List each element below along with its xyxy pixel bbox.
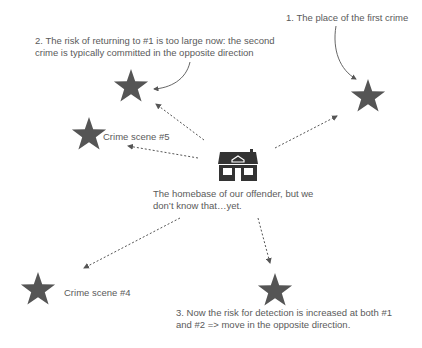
star-icon-crime-4 bbox=[21, 272, 55, 305]
star-icon-crime-2 bbox=[114, 69, 148, 102]
offender-geography-diagram: 1. The place of the first crime 2. The r… bbox=[0, 0, 422, 348]
annotation-homebase-line2: don’t know that…yet. bbox=[153, 200, 242, 212]
annotation-second-crime-line2: crime is typically committed in the oppo… bbox=[35, 47, 254, 59]
annotation-first-crime: 1. The place of the first crime bbox=[286, 12, 408, 24]
label-crime-scene-4: Crime scene #4 bbox=[64, 287, 131, 299]
annotation-homebase-line1: The homebase of our offender, but we bbox=[153, 188, 313, 200]
dotted-arrow-to-crime-1 bbox=[275, 116, 337, 148]
dotted-arrow-to-crime-4 bbox=[84, 218, 180, 268]
star-icon-crime-3 bbox=[258, 273, 292, 306]
star-icon-crime-5 bbox=[72, 117, 106, 150]
dotted-arrow-to-crime-3 bbox=[258, 218, 270, 263]
arrow-annotation-1 bbox=[335, 26, 356, 79]
annotation-second-crime-line1: 2. The risk of returning to #1 is too la… bbox=[35, 35, 275, 47]
star-icon-crime-1 bbox=[351, 79, 385, 112]
house-icon-homebase bbox=[218, 149, 258, 181]
label-crime-scene-5: Crime scene #5 bbox=[103, 131, 170, 143]
annotation-third-crime-line1: 3. Now the risk for detection is increas… bbox=[176, 307, 392, 319]
dotted-arrow-to-crime-5 bbox=[128, 146, 198, 158]
arrow-annotation-2 bbox=[154, 62, 190, 89]
annotation-third-crime-line2: and #2 => move in the opposite direction… bbox=[176, 319, 350, 331]
